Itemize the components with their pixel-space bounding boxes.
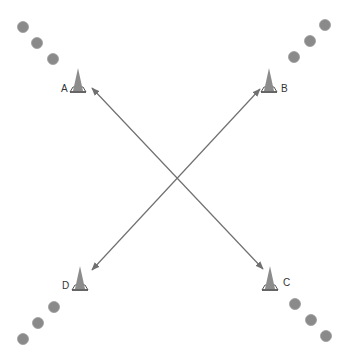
cone-label: B: [281, 83, 288, 94]
ball-icon: [306, 315, 317, 326]
ball-icon: [18, 22, 29, 33]
drill-diagram: ABCD: [0, 0, 351, 364]
cone-d: D: [62, 266, 88, 291]
cone-icon: [265, 266, 275, 289]
ball-icon: [289, 52, 300, 63]
ball-icon: [305, 36, 316, 47]
ball-icon: [320, 20, 331, 31]
cone-label: D: [62, 280, 69, 291]
ball-icon: [32, 38, 43, 49]
cone-icon: [75, 266, 85, 289]
cone-icon: [73, 68, 83, 91]
ball-icon: [321, 331, 332, 342]
cone-icon: [264, 68, 274, 91]
cone-label: C: [283, 277, 290, 288]
balls: [18, 20, 332, 345]
cone-b: B: [261, 68, 288, 94]
ball-icon: [290, 299, 301, 310]
cone-label: A: [61, 83, 68, 94]
cone-a: A: [61, 68, 86, 94]
ball-icon: [49, 302, 60, 313]
ball-icon: [33, 318, 44, 329]
cone-c: C: [262, 266, 290, 290]
ball-icon: [48, 54, 59, 65]
ball-icon: [18, 334, 29, 345]
arrow-b-d: [92, 89, 260, 270]
arrows: [92, 88, 263, 270]
